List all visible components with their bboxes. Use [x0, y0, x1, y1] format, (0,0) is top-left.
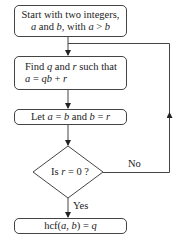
find-line1: Find q and r such that: [25, 61, 126, 73]
decision-text: Is r = 0 ?: [51, 166, 89, 178]
assign-box: Let a = b and b = r: [14, 109, 127, 125]
result-box: hcf(a, b) = q: [14, 218, 127, 234]
find-box: Find q and r such that a = qb + r: [14, 56, 127, 90]
yes-label: Yes: [73, 200, 88, 212]
start-line2: a and b, with a > b: [15, 21, 126, 33]
start-line1: Start with two integers,: [15, 9, 126, 21]
find-line2: a = qb + r: [25, 73, 126, 85]
start-box: Start with two integers, a and b, with a…: [14, 5, 127, 37]
no-label: No: [128, 158, 141, 170]
